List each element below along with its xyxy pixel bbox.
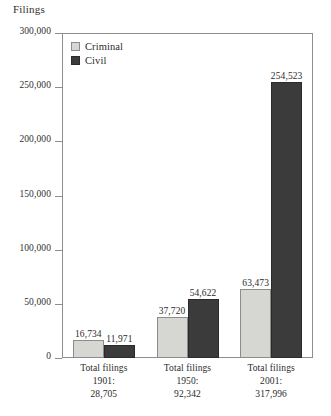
- bar-value-label: 16,734: [75, 329, 102, 339]
- civil-swatch: [71, 56, 80, 65]
- bar-criminal-2001[interactable]: 63,473: [240, 289, 271, 358]
- bar-value-label: 11,971: [106, 334, 132, 344]
- chart-legend: CriminalCivil: [71, 40, 123, 68]
- legend-item-label: Criminal: [85, 41, 123, 52]
- x-axis-category-line: Total filings: [62, 362, 146, 375]
- bar-civil-1950[interactable]: 54,622: [188, 299, 219, 358]
- y-axis-tick-mark: [55, 250, 62, 251]
- bar-group: 16,73411,971: [73, 33, 135, 358]
- x-axis-category-line: 2001:: [229, 375, 313, 388]
- y-axis-tick-label: 0: [46, 351, 51, 361]
- y-axis-tick-mark: [55, 33, 62, 34]
- bar-value-label: 254,523: [271, 71, 303, 81]
- x-axis-labels: Total filings1901:28,705Total filings195…: [62, 362, 313, 416]
- bar-value-label: 63,473: [242, 278, 269, 288]
- x-axis-category-line: Total filings: [146, 362, 230, 375]
- x-axis-category-line: 1950:: [146, 375, 230, 388]
- bar-civil-1901[interactable]: 11,971: [104, 345, 135, 358]
- y-axis-tick-mark: [55, 141, 62, 142]
- x-axis-category-line: 1901:: [62, 375, 146, 388]
- criminal-swatch: [71, 42, 80, 51]
- bar-value-label: 37,720: [159, 306, 186, 316]
- legend-item-civil[interactable]: Civil: [71, 54, 123, 67]
- y-axis-tick-mark: [55, 358, 62, 359]
- legend-item-criminal[interactable]: Criminal: [71, 40, 123, 53]
- y-axis-tick-label: 300,000: [19, 26, 51, 36]
- bar-group: 63,473254,523: [240, 33, 302, 358]
- y-axis-tick-label: 150,000: [19, 189, 51, 199]
- bar-criminal-1950[interactable]: 37,720: [157, 317, 188, 358]
- bar-group: 37,72054,622: [157, 33, 219, 358]
- y-axis-tick-label: 100,000: [19, 243, 51, 253]
- y-axis-tick-mark: [55, 196, 62, 197]
- x-axis-category-line: Total filings: [229, 362, 313, 375]
- x-axis-category-label: Total filings1901:28,705: [62, 362, 146, 401]
- bar-criminal-1901[interactable]: 16,734: [73, 340, 104, 358]
- x-axis-category-line: 28,705: [62, 388, 146, 401]
- bars-layer: 16,73411,97137,72054,62263,473254,523: [62, 33, 313, 358]
- x-axis-category-label: Total filings1950:92,342: [146, 362, 230, 401]
- y-axis-tick-mark: [55, 304, 62, 305]
- bar-value-label: 54,622: [190, 288, 217, 298]
- x-axis-category-label: Total filings2001:317,996: [229, 362, 313, 401]
- y-axis-tick-mark: [55, 87, 62, 88]
- bar-civil-2001[interactable]: 254,523: [271, 82, 302, 358]
- y-axis: 050,000100,000150,000200,000250,000300,0…: [0, 0, 62, 416]
- y-axis-tick-label: 50,000: [24, 297, 51, 307]
- x-axis-category-line: 92,342: [146, 388, 230, 401]
- y-axis-tick-label: 200,000: [19, 134, 51, 144]
- y-axis-tick-label: 250,000: [19, 80, 51, 90]
- legend-item-label: Civil: [85, 55, 107, 66]
- x-axis-category-line: 317,996: [229, 388, 313, 401]
